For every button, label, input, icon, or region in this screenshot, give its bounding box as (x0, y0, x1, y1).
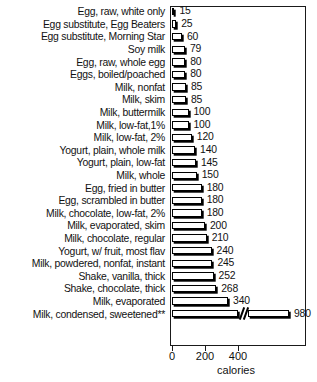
value-label: 200 (210, 220, 227, 230)
bar-container: 79 (172, 45, 185, 54)
value-label: 25 (181, 19, 192, 29)
category-label: Milk, nonfat (115, 83, 165, 93)
bar (172, 121, 189, 128)
bar-row: Egg, raw, white only15 (0, 6, 317, 19)
bar (172, 96, 186, 103)
bar-row: Egg, scrambled in butter180 (0, 195, 317, 208)
value-label: 245 (217, 258, 234, 268)
category-label: Milk, whole (116, 171, 165, 181)
category-label: Milk, buttermilk (100, 108, 165, 118)
value-label: 150 (202, 170, 219, 180)
bar-row: Egg, fried in butter180 (0, 182, 317, 195)
category-label: Shake, vanilla, thick (78, 272, 165, 282)
category-label: Milk, low-fat, 2% (94, 133, 165, 143)
value-label: 60 (187, 31, 198, 41)
bar (172, 172, 197, 179)
value-label: 79 (190, 44, 201, 54)
category-label: Egg, scrambled in butter (58, 196, 165, 206)
bar (172, 83, 186, 90)
bar (172, 71, 185, 78)
value-label: 240 (217, 246, 234, 256)
bar-container: 210 (172, 234, 207, 243)
bar (172, 209, 202, 216)
bar (172, 134, 192, 141)
bar-row: Egg, raw, whole egg80 (0, 56, 317, 69)
value-label: 100 (194, 120, 211, 130)
bar-row: Yogurt, plain, whole milk140 (0, 145, 317, 158)
bar (172, 58, 185, 65)
bar-container: 25 (172, 20, 176, 29)
value-label: 180 (207, 195, 224, 205)
bar-container: 180 (172, 196, 202, 205)
bar-row: Milk, powdered, nonfat, instant245 (0, 258, 317, 271)
bar-container: 268 (172, 284, 216, 293)
category-label: Eggs, boiled/poached (70, 70, 165, 80)
category-label: Egg, raw, whole egg (76, 57, 165, 67)
category-label: Egg, raw, white only (78, 7, 165, 17)
value-label: 80 (190, 69, 201, 79)
bar-row: Milk, chocolate, regular210 (0, 233, 317, 246)
bar (172, 8, 174, 15)
bar-container: 80 (172, 58, 185, 67)
bar-row: Milk, whole150 (0, 170, 317, 183)
category-label: Milk, evaporated, skim (67, 221, 165, 231)
value-label: 140 (200, 145, 217, 155)
category-label: Yogurt, w/ fruit, most flav (58, 246, 165, 256)
bar-row: Yogurt, plain, low-fat145 (0, 157, 317, 170)
bar-row: Milk, condensed, sweetened**980 (0, 308, 317, 321)
bar-row: Egg substitute, Egg Beaters25 (0, 19, 317, 32)
bar-container: 150 (172, 171, 197, 180)
bar-continued-segment (248, 310, 289, 317)
bar-rows: Egg, raw, white only15Egg substitute, Eg… (0, 6, 317, 321)
value-label: 145 (201, 157, 218, 167)
calories-bar-chart: Egg, raw, white only15Egg substitute, Eg… (0, 0, 317, 382)
bar (172, 222, 205, 229)
bar (172, 20, 176, 27)
bar-container: 200 (172, 221, 205, 230)
category-label: Milk, condensed, sweetened** (33, 309, 165, 319)
category-label: Milk, powdered, nonfat, instant (32, 259, 165, 269)
category-label: Milk, low-fat,1% (96, 120, 165, 130)
bar (172, 260, 212, 267)
value-label: 15 (179, 6, 190, 16)
bar-container: 120 (172, 133, 192, 142)
bar-row: Milk, chocolate, low-fat, 2%180 (0, 208, 317, 221)
bar (172, 247, 212, 254)
category-label: Milk, skim (122, 95, 165, 105)
bar (172, 197, 202, 204)
bar-container: 240 (172, 246, 212, 255)
value-label: 340 (233, 296, 250, 306)
category-label: Yogurt, plain, whole milk (60, 146, 165, 156)
category-label: Soy milk (128, 45, 165, 55)
bar-container: 60 (172, 32, 182, 41)
bar-container: 140 (172, 146, 195, 155)
bar-row: Milk, nonfat85 (0, 82, 317, 95)
x-axis-title: calories (217, 365, 255, 376)
bar-container: 100 (172, 121, 189, 130)
bar (172, 184, 202, 191)
value-label: 180 (207, 183, 224, 193)
value-label: 120 (197, 132, 214, 142)
bar (172, 159, 196, 166)
bar (172, 285, 216, 292)
bar-row: Shake, chocolate, thick268 (0, 283, 317, 296)
bar-row: Yogurt, w/ fruit, most flav240 (0, 245, 317, 258)
value-label: 980 (294, 309, 311, 319)
value-label: 100 (194, 107, 211, 117)
category-label: Egg, fried in butter (85, 183, 165, 193)
bar-container: 100 (172, 108, 189, 117)
value-label: 80 (190, 57, 201, 67)
bar-container: 245 (172, 259, 212, 268)
bar (172, 109, 189, 116)
bar-container: 80 (172, 70, 185, 79)
bar-container: 15 (172, 7, 174, 16)
bar-row: Shake, vanilla, thick252 (0, 270, 317, 283)
bar-container: 980 (172, 309, 238, 318)
bar-container: 340 (172, 297, 228, 306)
bar (172, 146, 195, 153)
bar (172, 46, 185, 53)
x-tick-label: 400 (229, 351, 247, 362)
x-tick-label: 0 (169, 351, 175, 362)
bar (172, 297, 228, 304)
value-label: 252 (219, 271, 236, 281)
